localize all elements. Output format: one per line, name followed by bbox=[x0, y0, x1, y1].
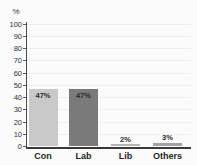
bar-value-label-lib: 2% bbox=[112, 135, 140, 144]
y-tick-label-50: 50 bbox=[4, 82, 22, 89]
gridline-50 bbox=[26, 85, 191, 86]
y-tick-label-90: 90 bbox=[4, 33, 22, 40]
bar-value-label-others: 3% bbox=[154, 133, 182, 142]
gridline-70 bbox=[26, 60, 191, 61]
y-tick-label-0: 0 bbox=[4, 143, 22, 150]
y-tick-label-10: 10 bbox=[4, 131, 22, 138]
y-tick-label-30: 30 bbox=[4, 106, 22, 113]
x-tick-label-lib: Lib bbox=[106, 151, 146, 161]
gridline-90 bbox=[26, 36, 191, 37]
gridline-100 bbox=[26, 24, 191, 25]
y-tick-label-40: 40 bbox=[4, 94, 22, 101]
bar-others bbox=[153, 143, 182, 147]
gridline-60 bbox=[26, 73, 191, 74]
bar-value-label-con: 47% bbox=[29, 91, 57, 100]
y-tick-label-70: 70 bbox=[4, 57, 22, 64]
x-tick-label-others: Others bbox=[148, 151, 188, 161]
x-axis-line bbox=[26, 147, 191, 149]
gridline-80 bbox=[26, 48, 191, 49]
x-tick-label-con: Con bbox=[23, 151, 63, 161]
y-axis-unit-label: % bbox=[8, 7, 24, 16]
x-tick-label-lab: Lab bbox=[64, 151, 104, 161]
y-tick-label-20: 20 bbox=[4, 119, 22, 126]
y-axis-line bbox=[26, 22, 27, 147]
bar-lib bbox=[111, 144, 140, 146]
bar-value-label-lab: 47% bbox=[70, 91, 98, 100]
y-tick-label-80: 80 bbox=[4, 45, 22, 52]
y-tick-label-100: 100 bbox=[4, 21, 22, 28]
bar-chart: % 010203040506070809010047%Con47%Lab2%Li… bbox=[0, 0, 197, 165]
y-tick-label-60: 60 bbox=[4, 70, 22, 77]
